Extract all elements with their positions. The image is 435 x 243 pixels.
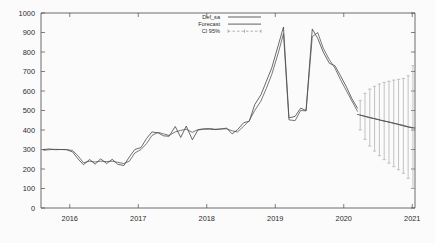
chart-canvas: 0100200300400500600700800900100020162017… — [0, 0, 435, 243]
y-axis-tick-label: 1000 — [19, 9, 35, 18]
x-axis-tick-label: 2021 — [404, 214, 420, 223]
y-axis-tick-label: 200 — [23, 165, 35, 174]
forecast-chart-figure: 0100200300400500600700800900100020162017… — [0, 0, 435, 243]
y-axis-tick-label: 500 — [23, 106, 35, 115]
y-axis-tick-label: 700 — [23, 67, 35, 76]
ci-center-line — [360, 115, 413, 128]
plot-frame — [41, 13, 415, 208]
x-axis-tick-label: 2019 — [267, 214, 283, 223]
x-axis-tick-label: 2018 — [199, 214, 215, 223]
y-axis-tick-label: 300 — [23, 145, 35, 154]
x-axis-tick-label: 2017 — [130, 214, 146, 223]
confidence-interval-group — [359, 66, 415, 189]
y-axis-tick-label: 400 — [23, 126, 35, 135]
y-axis-tick-label: 800 — [23, 48, 35, 57]
legend-label-forecast: Forecast — [198, 21, 220, 27]
y-axis-tick-label: 0 — [31, 204, 35, 213]
x-axis-tick-label: 2016 — [62, 214, 78, 223]
y-axis-tick-label: 100 — [23, 184, 35, 193]
x-axis-tick-label: 2020 — [336, 214, 352, 223]
y-axis-tick-label: 900 — [23, 28, 35, 37]
legend-label-def-sa: Def_sa — [202, 14, 221, 20]
series-line-def-sa — [44, 27, 358, 165]
y-axis-tick-label: 600 — [23, 87, 35, 96]
chart-legend: Def_saForecastCI 95% — [198, 14, 261, 34]
legend-label-ci-95-: CI 95% — [202, 28, 220, 34]
